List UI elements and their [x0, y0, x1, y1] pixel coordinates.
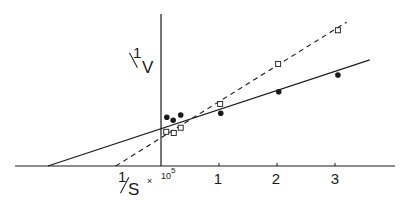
open-square-marker — [164, 129, 169, 134]
open-square-marker — [276, 61, 281, 66]
dashed-fit-line — [116, 22, 347, 166]
open-square-marker — [171, 130, 176, 135]
x-tick-label-1: 1 — [214, 170, 222, 187]
filled-circle-marker — [164, 114, 170, 120]
lineweaver-burk-plot — [0, 0, 405, 206]
filled-circle-marker — [178, 112, 184, 118]
filled-circle-marker — [276, 89, 282, 95]
x-label-base: 10 — [161, 171, 171, 181]
y-label-denominator: V — [142, 58, 153, 78]
x-tick-label-3: 3 — [331, 170, 339, 187]
filled-circle-marker — [218, 110, 224, 116]
x-label-denominator: S — [128, 180, 139, 200]
open-square-marker — [335, 28, 340, 33]
x-label-exponent: 5 — [171, 166, 175, 175]
solid-fit-line — [48, 60, 370, 166]
open-square-marker — [178, 125, 183, 130]
open-square-marker — [218, 101, 223, 106]
x-tick-label-2: 2 — [272, 170, 280, 187]
y-label-numerator: 1 — [133, 44, 141, 61]
x-label-times: × — [147, 176, 152, 186]
fit-lines — [48, 22, 370, 166]
filled-circle-marker — [335, 72, 341, 78]
filled-circle-marker — [170, 117, 176, 123]
